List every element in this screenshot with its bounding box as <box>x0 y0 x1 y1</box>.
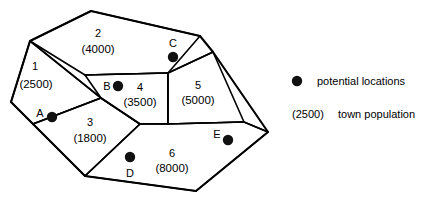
region-number-4: 4 <box>137 82 143 93</box>
potential-location-label-b: B <box>103 81 110 92</box>
territory-map-figure: 1(2500)2(4000)3(1800)4(3500)5(5000)6(800… <box>0 0 432 205</box>
region-population-2: (4000) <box>81 44 114 56</box>
region-population-3: (1800) <box>73 133 106 145</box>
potential-location-dot-icon-c <box>168 52 178 62</box>
region-number-2: 2 <box>95 28 101 39</box>
region-number-5: 5 <box>195 80 201 91</box>
region-number-1: 1 <box>32 61 38 72</box>
legend-label-potential-locations: potential locations <box>317 76 405 87</box>
potential-location-dot-icon-b <box>113 81 123 91</box>
potential-location-label-e: E <box>213 129 220 140</box>
region-shape-5 <box>168 52 244 124</box>
region-number-3: 3 <box>87 117 93 128</box>
map-svg <box>0 0 432 205</box>
region-population-4: (3500) <box>123 97 156 109</box>
region-population-5: (5000) <box>181 95 214 107</box>
region-population-1: (2500) <box>19 79 52 91</box>
potential-location-dot-icon-a <box>47 112 57 122</box>
legend-potential-location-dot-icon <box>292 76 302 86</box>
legend-population-sample-value: (2500) <box>292 109 324 120</box>
potential-location-label-c: C <box>169 38 177 49</box>
legend-symbols <box>292 76 302 86</box>
potential-location-dot-icon-e <box>223 135 233 145</box>
region-number-6: 6 <box>169 148 175 159</box>
potential-location-dot-icon-d <box>125 152 135 162</box>
potential-location-label-a: A <box>36 108 43 119</box>
region-population-6: (8000) <box>155 163 188 175</box>
potential-location-label-d: D <box>126 168 134 179</box>
legend-label-town-population: town population <box>338 109 415 120</box>
